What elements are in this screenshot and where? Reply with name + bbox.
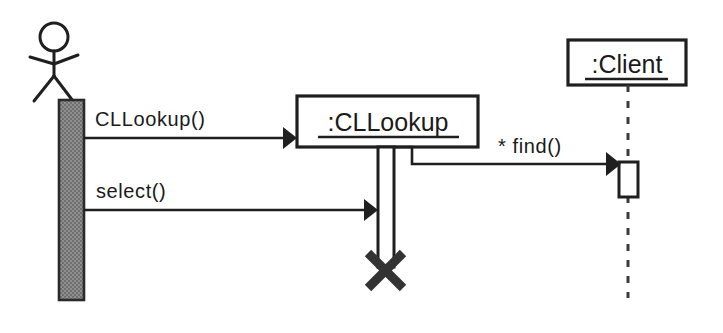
arrow-head-select (364, 199, 378, 221)
actor-activation-bar (59, 100, 84, 300)
participant-box-client[interactable]: :Client (568, 40, 686, 85)
arrow-head-cllookup (283, 127, 297, 149)
message-label-select: select() (96, 180, 166, 202)
actor-icon (30, 23, 78, 101)
message-label-find: * find() (498, 135, 562, 157)
message-cllookup[interactable]: CLLookup() (84, 108, 297, 149)
activation-bar-client (619, 162, 638, 197)
message-select[interactable]: select() (84, 180, 378, 221)
participant-label-cllookup: :CLLookup (328, 108, 449, 136)
activation-bar-cllookup (378, 147, 394, 267)
diagram-canvas: :CLLookup :Client (0, 0, 723, 333)
uml-sequence-diagram: :CLLookup :Client (0, 0, 723, 333)
participant-box-cllookup[interactable]: :CLLookup (297, 96, 478, 147)
message-label-cllookup: CLLookup() (95, 108, 206, 130)
participant-label-client: :Client (592, 50, 663, 78)
